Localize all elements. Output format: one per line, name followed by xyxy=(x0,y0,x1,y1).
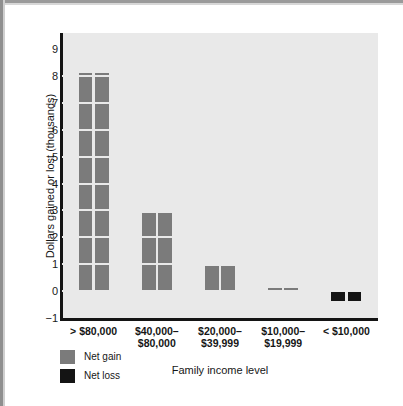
bar-segment-right xyxy=(348,291,362,300)
x-tick-line1: $10,000– xyxy=(261,325,305,337)
x-tick-line1: $40,000– xyxy=(135,325,179,337)
legend-swatch-gain xyxy=(60,350,75,364)
bar-segment-left xyxy=(331,291,345,300)
bar-loss[interactable] xyxy=(331,291,361,300)
legend-label-loss: Net loss xyxy=(84,370,120,381)
x-tick-line1: $20,000– xyxy=(198,325,242,337)
chart-legend: Net gainNet loss xyxy=(60,348,190,386)
gridline xyxy=(62,75,378,77)
y-tick-label: −1 xyxy=(4,313,58,324)
legend-label-gain: Net gain xyxy=(84,351,121,362)
gridline xyxy=(62,129,378,131)
legend-item-loss[interactable]: Net loss xyxy=(60,367,190,386)
bar-gain[interactable] xyxy=(142,213,172,291)
page-root: 9876543210−1 Dollars gained or lost (tho… xyxy=(0,0,403,406)
gridline xyxy=(62,263,378,265)
legend-swatch-loss xyxy=(60,369,75,383)
gridline xyxy=(62,290,378,292)
bar-segment-right xyxy=(158,213,172,291)
gridline xyxy=(62,156,378,158)
bar-segment-right xyxy=(221,266,235,292)
bar-segment-left xyxy=(205,266,219,292)
legend-item-gain[interactable]: Net gain xyxy=(60,348,190,367)
bar-segment-left xyxy=(142,213,156,291)
x-tick-line1: > $80,000 xyxy=(70,325,117,337)
gridline xyxy=(62,183,378,185)
bar-gain[interactable] xyxy=(205,266,235,292)
x-axis-line xyxy=(60,318,378,321)
gridline xyxy=(62,209,378,211)
y-axis-title: Dollars gained or lost (thousands) xyxy=(44,46,56,306)
gridline xyxy=(62,102,378,104)
bar-chart-figure: 9876543210−1 Dollars gained or lost (tho… xyxy=(0,0,403,406)
x-tick-line1: < $10,000 xyxy=(323,325,370,337)
x-tick-line2: $19,999 xyxy=(243,337,323,349)
x-tick-label: < $10,000 xyxy=(306,325,386,337)
gridline xyxy=(62,236,378,238)
